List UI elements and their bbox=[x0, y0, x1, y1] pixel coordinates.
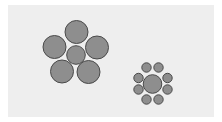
left-group-surround-circle bbox=[51, 60, 74, 83]
left-group-surround-circle bbox=[86, 36, 109, 59]
left-group-center-circle bbox=[67, 46, 86, 65]
left-group-surround-circle bbox=[43, 36, 66, 59]
right-group-surround-circle bbox=[154, 95, 163, 104]
right-group-center-circle bbox=[143, 75, 162, 94]
left-group-surround-circle bbox=[77, 61, 100, 84]
right-group-surround-circle bbox=[154, 63, 163, 72]
right-group-surround-circle bbox=[142, 63, 151, 72]
right-group-surround-circle bbox=[163, 85, 172, 94]
right-group-surround-circle bbox=[163, 73, 172, 82]
left-group-surround-circle bbox=[65, 21, 88, 44]
right-group-surround-circle bbox=[134, 85, 143, 94]
right-group-surround-circle bbox=[134, 73, 143, 82]
right-group-surround-circle bbox=[142, 95, 151, 104]
ebbinghaus-figure bbox=[0, 0, 222, 122]
